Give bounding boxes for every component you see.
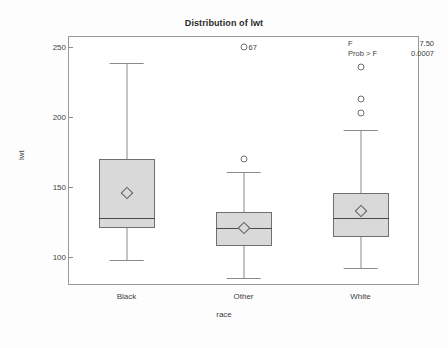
lower-whisker-cap: [226, 278, 261, 279]
upper-whisker-cap: [226, 172, 261, 173]
x-tick-label-black: Black: [87, 292, 167, 301]
y-tick-label: 150: [40, 183, 66, 192]
outlier-point: [240, 156, 247, 163]
stats-row-f: F 7.50: [348, 39, 434, 49]
outlier-point: [357, 95, 364, 102]
outlier-point: [357, 109, 364, 116]
lower-whisker-line: [126, 228, 127, 260]
y-tick-mark: [68, 257, 73, 258]
y-tick-mark: [68, 117, 73, 118]
outlier-label: 67: [249, 43, 257, 52]
stats-row-prob: Prob > F 0.0007: [348, 49, 434, 59]
y-tick-mark: [68, 47, 73, 48]
upper-whisker-line: [360, 130, 361, 193]
y-tick-label: 200: [40, 113, 66, 122]
y-axis: 100150200250: [36, 0, 66, 348]
outlier-point: [357, 63, 364, 70]
prob-value: 0.0007: [411, 49, 434, 59]
lower-whisker-cap: [109, 260, 144, 261]
x-axis-title: race: [0, 310, 448, 319]
f-label: F: [348, 39, 353, 49]
lower-whisker-line: [243, 246, 244, 278]
f-value: 7.50: [419, 39, 434, 49]
upper-whisker-line: [243, 172, 244, 213]
boxplot-chart: Distribution of lwt 100150200250 lwt rac…: [0, 0, 448, 348]
upper-whisker-cap: [109, 63, 144, 64]
lower-whisker-cap: [343, 268, 378, 269]
y-tick-label: 100: [40, 253, 66, 262]
x-tick-label-white: White: [321, 292, 401, 301]
anova-stats-annotation: F 7.50 Prob > F 0.0007: [348, 39, 434, 59]
median-line: [99, 218, 155, 219]
prob-label: Prob > F: [348, 49, 377, 59]
x-tick-label-other: Other: [204, 292, 284, 301]
chart-title: Distribution of lwt: [0, 18, 448, 28]
upper-whisker-cap: [343, 130, 378, 131]
median-line: [333, 218, 389, 219]
upper-whisker-line: [126, 63, 127, 160]
y-axis-title: lwt: [17, 150, 26, 160]
outlier-point: [240, 44, 247, 51]
lower-whisker-line: [360, 237, 361, 268]
y-tick-mark: [68, 187, 73, 188]
y-tick-label: 250: [40, 43, 66, 52]
